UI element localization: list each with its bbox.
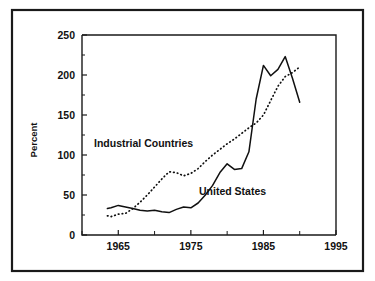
x-axis-tick-label: 1975 (179, 240, 203, 252)
x-axis-tick-label: 1985 (252, 240, 276, 252)
x-axis-tick-label: 1965 (107, 240, 131, 252)
x-axis-tick-label: 1995 (324, 240, 348, 252)
y-axis-tick-label: 100 (57, 149, 75, 161)
y-axis-tick-label: 200 (57, 69, 75, 81)
series-label-united-states: United States (199, 185, 266, 197)
y-axis-tick-label: 0 (69, 229, 75, 241)
y-axis-tick-label: 150 (57, 109, 75, 121)
y-axis-tick-label: 250 (57, 29, 75, 41)
y-axis-tick-label: 50 (63, 189, 75, 201)
series-label-industrial-countries: Industrial Countries (94, 137, 193, 149)
chart-figure: 050100150200250 1965197519851995 Percent… (0, 0, 375, 281)
y-axis-title: Percent (28, 122, 39, 158)
chart-canvas: 050100150200250 1965197519851995 Percent… (0, 0, 375, 281)
